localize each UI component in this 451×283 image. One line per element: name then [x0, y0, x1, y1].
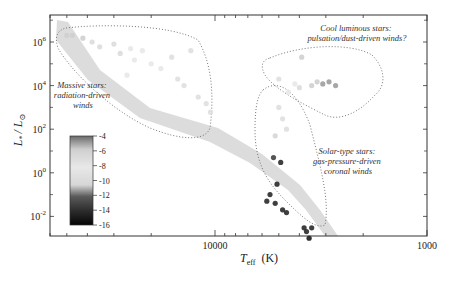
data-point [278, 160, 283, 165]
colorbar-tick-label: -12 [99, 191, 110, 200]
data-point [188, 48, 193, 53]
data-point [70, 33, 75, 38]
y-tick-label: 102 [33, 122, 47, 135]
y-tick-label: 106 [33, 35, 47, 48]
data-point [326, 79, 331, 84]
x-axis-title: Teff(K) [240, 251, 278, 267]
data-point [118, 51, 123, 56]
colorbar-tick-label: -8 [99, 162, 106, 171]
data-point [132, 57, 137, 62]
data-point [175, 76, 180, 81]
y-axis-title: L*/ L⊙ [11, 114, 27, 147]
colorbar-tick-label: -6 [99, 147, 106, 156]
data-point [64, 33, 69, 38]
data-point [149, 61, 154, 66]
colorbar-tick-label: -16 [99, 221, 110, 230]
colorbar-tick-label: -4 [99, 132, 106, 141]
data-point [273, 133, 278, 138]
data-point [276, 105, 281, 110]
data-point [315, 79, 320, 84]
data-point [280, 116, 285, 121]
annotation-solar-type-stars: Solar-type stars: gas-pressure-driven co… [313, 146, 383, 176]
x-tick-label: 1000 [417, 240, 437, 251]
annotation-massive-stars: Massive stars: radiation-driven winds [54, 80, 112, 110]
data-point [97, 44, 102, 49]
data-point [284, 127, 289, 132]
data-point [299, 55, 304, 60]
colorbar [70, 136, 93, 225]
data-point [140, 48, 145, 53]
data-point [320, 81, 325, 86]
data-point [276, 76, 281, 81]
data-point [273, 201, 278, 206]
y-tick-label: 10-2 [30, 209, 46, 222]
data-point [304, 229, 309, 234]
data-point [181, 83, 186, 88]
colorbar-tick-label: -14 [99, 206, 110, 215]
y-tick-label: 100 [33, 166, 47, 179]
data-point [274, 182, 279, 187]
data-point [208, 110, 213, 115]
data-point [333, 83, 338, 88]
colorbar-tick-label: -10 [99, 177, 110, 186]
data-point [80, 36, 85, 41]
x-tick-label: 10000 [203, 240, 228, 251]
data-point [204, 101, 209, 106]
data-point [284, 210, 289, 215]
data-point [196, 94, 201, 99]
data-point [309, 225, 314, 230]
data-point [128, 46, 133, 51]
data-point [309, 83, 314, 88]
data-point [111, 42, 116, 47]
annotation-cool-luminous-stars: Cool luminous stars: pulsation/dust-driv… [307, 23, 408, 43]
data-point [169, 55, 174, 60]
plot-frame [50, 15, 427, 236]
hr-diagram-chart: 10610410210010-2100001000 -4-6-8-10-12-1… [0, 0, 451, 283]
data-point [292, 81, 297, 86]
data-point [90, 39, 95, 44]
data-point [297, 85, 302, 90]
data-point [264, 199, 269, 204]
colorbar-ticks: -4-6-8-10-12-14-16 [93, 132, 110, 230]
y-tick-label: 104 [33, 79, 47, 92]
data-point [271, 155, 276, 160]
data-point [158, 66, 163, 71]
data-point [124, 73, 129, 78]
main-sequence-band [56, 20, 338, 236]
data-point [267, 192, 272, 197]
data-point [286, 90, 291, 95]
